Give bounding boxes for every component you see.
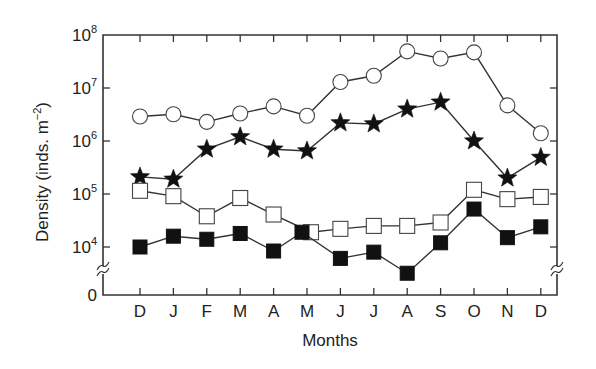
y-tick-label: 106 <box>72 129 97 151</box>
open-square-marker <box>400 218 415 233</box>
filled-square-marker <box>333 251 347 265</box>
star-marker <box>164 169 183 187</box>
open-square-marker <box>467 182 482 197</box>
series-open-square <box>133 182 549 239</box>
star-marker <box>297 141 316 159</box>
y-axis-title-close: ) <box>33 102 52 108</box>
open-square-marker <box>266 207 281 222</box>
x-tick-label: A <box>402 302 414 321</box>
y-tick-label: 104 <box>72 235 97 257</box>
x-tick-label: M <box>300 302 314 321</box>
star-marker <box>431 92 450 110</box>
filled-square-marker <box>467 202 481 216</box>
circle-marker <box>366 68 381 83</box>
x-axis-title: Months <box>302 331 358 350</box>
filled-square-marker <box>166 229 180 243</box>
filled-square-marker <box>295 225 309 239</box>
y-axis-title: Density (inds. m−2) <box>31 102 52 242</box>
series-filled-square <box>133 202 548 280</box>
filled-square-marker <box>267 244 281 258</box>
x-tick-label: J <box>370 302 379 321</box>
circle-marker <box>533 126 548 141</box>
x-tick-label: D <box>134 302 146 321</box>
x-tick-label: D <box>535 302 547 321</box>
open-square-marker <box>500 192 515 207</box>
filled-square-marker <box>434 236 448 250</box>
x-tick-label: M <box>233 302 247 321</box>
circle-marker <box>199 114 214 129</box>
open-square-marker <box>133 183 148 198</box>
plot-frame-lower <box>103 274 557 295</box>
circle-marker <box>300 108 315 123</box>
star-marker <box>231 127 250 145</box>
star-marker <box>364 114 383 132</box>
y-tick-label: 105 <box>72 182 97 204</box>
filled-square-marker <box>400 266 414 280</box>
y-axis-title-main: Density (inds. m <box>33 120 52 242</box>
x-tick-label: S <box>435 302 446 321</box>
open-square-marker <box>333 221 348 236</box>
open-square-marker <box>166 189 181 204</box>
circle-marker <box>400 44 415 59</box>
y-axis-title-exp: −2 <box>31 108 43 121</box>
filled-square-marker <box>534 220 548 234</box>
open-square-marker <box>366 218 381 233</box>
circle-marker <box>266 99 281 114</box>
filled-square-marker <box>200 232 214 246</box>
circle-marker <box>433 51 448 66</box>
circle-marker <box>333 74 348 89</box>
open-square-marker <box>199 209 214 224</box>
filled-square-marker <box>133 240 147 254</box>
plot-axes: 1081071061051040DJFMAMJJASOND <box>72 23 563 321</box>
x-tick-label: A <box>268 302 280 321</box>
open-square-marker <box>433 215 448 230</box>
open-square-marker <box>533 189 548 204</box>
star-marker <box>398 99 417 117</box>
circle-marker <box>467 45 482 60</box>
circle-marker <box>500 98 515 113</box>
y-tick-label: 107 <box>72 76 97 98</box>
star-marker <box>264 139 283 157</box>
y-tick-label: 0 <box>88 286 97 305</box>
x-tick-label: J <box>336 302 345 321</box>
x-tick-label: N <box>501 302 513 321</box>
filled-square-marker <box>233 226 247 240</box>
circle-marker <box>133 109 148 124</box>
circle-marker <box>166 107 181 122</box>
density-chart: 1081071061051040DJFMAMJJASOND Months Den… <box>0 0 596 369</box>
y-tick-label: 108 <box>72 23 97 45</box>
x-tick-label: O <box>467 302 480 321</box>
x-tick-label: F <box>202 302 212 321</box>
x-tick-label: J <box>169 302 178 321</box>
filled-square-marker <box>500 231 514 245</box>
open-square-marker <box>233 191 248 206</box>
star-marker <box>130 167 149 185</box>
data-series <box>130 44 550 280</box>
series-filled-star <box>130 92 550 187</box>
star-marker <box>531 147 550 165</box>
filled-square-marker <box>367 245 381 259</box>
circle-marker <box>233 106 248 121</box>
